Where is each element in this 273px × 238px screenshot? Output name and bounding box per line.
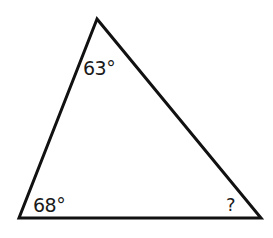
angle-label-top: 63° xyxy=(83,59,115,78)
angle-label-bottom-left: 68° xyxy=(33,196,65,215)
angle-label-bottom-right-unknown: ? xyxy=(226,196,235,214)
triangle-shape xyxy=(19,19,261,218)
